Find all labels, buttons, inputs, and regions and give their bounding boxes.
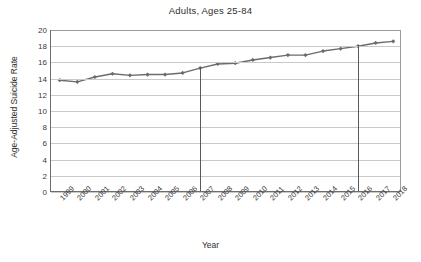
chart-figure: Adults, Ages 25-84 Age-Adjusted Suicide … [0,0,421,262]
y-tick-label-0: 0 [23,188,47,197]
chart-title: Adults, Ages 25-84 [0,5,421,16]
data-point-2006 [181,71,185,75]
y-tick-label-6: 6 [23,139,47,148]
gridline-14 [51,79,400,80]
plot-area: 02468101214161820 [50,30,401,192]
y-tick-label-16: 16 [23,58,47,67]
gridline-16 [51,62,400,63]
y-tick-label-8: 8 [23,123,47,132]
data-point-2014 [321,49,325,53]
data-point-2012 [286,53,290,57]
y-axis-label: Age-Adjusted Suicide Rate [2,34,16,194]
y-tick-label-18: 18 [23,42,47,51]
gridline-6 [51,143,400,144]
data-point-2011 [268,55,272,59]
data-point-2005 [163,72,167,76]
y-tick-label-4: 4 [23,155,47,164]
gridline-10 [51,111,400,112]
gridline-4 [51,160,400,161]
gridline-2 [51,176,400,177]
data-point-2017 [374,41,378,45]
gridline-8 [51,127,400,128]
data-point-2003 [128,73,132,77]
data-point-2004 [145,72,149,76]
gridline-18 [51,46,400,47]
y-tick-label-20: 20 [23,26,47,35]
data-point-2002 [110,72,114,76]
y-tick-label-12: 12 [23,90,47,99]
data-point-2013 [303,53,307,57]
reference-line-2016 [358,45,359,191]
y-tick-label-2: 2 [23,171,47,180]
y-tick-label-14: 14 [23,74,47,83]
y-tick-label-10: 10 [23,107,47,116]
x-axis-label: Year [0,240,421,250]
data-point-2018 [391,39,395,43]
x-axis-tick-labels: 1999200020012002200320042005200620072008… [50,196,401,236]
gridline-20 [51,30,400,31]
gridline-12 [51,95,400,96]
reference-line-2007 [200,67,201,191]
data-point-2000 [75,80,79,84]
y-axis-label-text: Age-Adjusted Suicide Rate [9,37,19,177]
